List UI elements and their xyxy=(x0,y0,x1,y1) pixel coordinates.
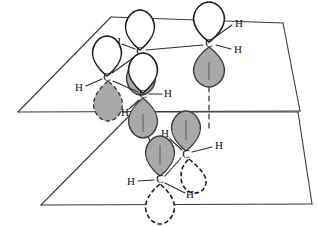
atom-label-c3: C xyxy=(103,71,111,83)
bond-c3-h4 xyxy=(86,79,102,86)
bond-c6-h9 xyxy=(138,180,154,181)
atom-label-h8: H xyxy=(215,139,223,151)
atom-label-h10: H xyxy=(186,188,194,200)
lower-plane-edge-left xyxy=(41,112,133,205)
c3-lobe-down-shaded xyxy=(94,81,123,121)
upper-plane xyxy=(18,17,300,112)
atom-group-c2: C H H xyxy=(194,2,243,87)
lower-plane-edge-bottom xyxy=(41,204,312,205)
bond-c2-h3 xyxy=(216,45,231,49)
bond-c1-c2 xyxy=(146,45,203,50)
atom-label-c5: C xyxy=(182,148,190,160)
lower-plane-edge-right xyxy=(298,112,312,204)
atom-label-h5: H xyxy=(164,87,172,99)
atom-label-c6: C xyxy=(156,173,164,185)
orbital-diagram-figure: C H H C H C H xyxy=(0,0,317,227)
atom-label-h2: H xyxy=(235,17,243,29)
atom-group-c1: C H xyxy=(112,10,203,95)
atom-label-h4: H xyxy=(75,81,83,93)
atom-label-c4: C xyxy=(139,88,147,100)
atom-group-c4: C H H xyxy=(121,53,172,138)
bond-c1-h1 xyxy=(122,44,135,49)
c6-lobe-down-unshaded xyxy=(146,184,175,224)
bond-c5-h8 xyxy=(192,147,212,152)
orbital-diagram-svg: C H H C H C H xyxy=(0,0,317,227)
atom-label-c2: C xyxy=(205,37,213,49)
upper-plane-edge-right xyxy=(283,23,300,111)
atom-label-h3: H xyxy=(234,43,242,55)
atom-label-h9: H xyxy=(127,175,135,187)
atom-label-h6: H xyxy=(121,106,129,118)
